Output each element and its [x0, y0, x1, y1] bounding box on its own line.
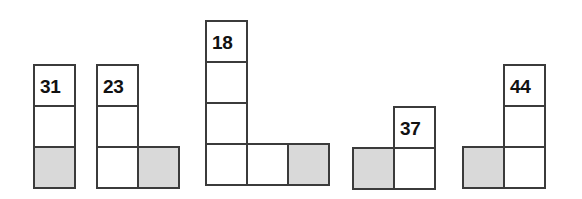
grid-cell [246, 143, 289, 186]
grid-cell [205, 102, 248, 145]
grid-cell [33, 105, 76, 148]
grid-cell [462, 146, 505, 189]
cell-number-label: 23 [103, 76, 124, 95]
grid-cell [96, 146, 139, 189]
grid-cell: 44 [503, 64, 546, 107]
grid-cell [205, 61, 248, 104]
grid-cell [33, 146, 76, 189]
grid-cell [137, 146, 180, 189]
cell-number-label: 37 [400, 118, 421, 137]
grid-cell: 23 [96, 64, 139, 107]
grid-cell [205, 143, 248, 186]
grid-cell [503, 105, 546, 148]
grid-cell: 31 [33, 64, 76, 107]
cell-number-label: 18 [212, 32, 233, 51]
polyomino-figure: 3123183744 [0, 0, 582, 199]
grid-cell [393, 147, 436, 190]
cell-number-label: 44 [510, 76, 531, 95]
cell-number-label: 31 [40, 76, 61, 95]
grid-cell [352, 147, 395, 190]
grid-cell: 18 [205, 20, 248, 63]
grid-cell [503, 146, 546, 189]
grid-cell [96, 105, 139, 148]
grid-cell: 37 [393, 106, 436, 149]
grid-cell [287, 143, 330, 186]
